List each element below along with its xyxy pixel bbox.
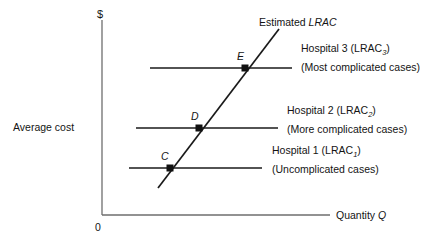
hospital-3-title: Hospital 3 (LRAC3) <box>301 41 420 60</box>
y-axis-label: Average cost <box>13 121 74 133</box>
hospital-1-title-tail: ) <box>357 144 361 156</box>
x-axis-label-symbol: Q <box>378 209 386 221</box>
estimated-lrac-label: Estimated LRAC <box>259 16 337 28</box>
hospital-3-annotation: Hospital 3 (LRAC3) (Most complicated cas… <box>301 41 420 75</box>
hospital-2-title: Hospital 2 (LRAC2) <box>287 103 407 122</box>
hospital-2-title-main: Hospital 2 (LRAC <box>287 104 368 116</box>
estimated-lrac-line <box>158 29 279 188</box>
point-marker-c <box>167 165 174 172</box>
origin-label: 0 <box>95 221 101 233</box>
point-label-e: E <box>237 50 244 62</box>
hospital-2-annotation: Hospital 2 (LRAC2) (More complicated cas… <box>287 103 407 137</box>
point-marker-e <box>242 65 249 72</box>
point-label-c: C <box>161 150 169 162</box>
hospital-2-caption: (More complicated cases) <box>287 122 407 137</box>
estimated-lrac-label-prefix: Estimated <box>259 16 309 28</box>
point-marker-d <box>196 125 203 132</box>
hospital-3-title-main: Hospital 3 (LRAC <box>301 42 382 54</box>
hospital-1-caption: (Uncomplicated cases) <box>272 162 379 177</box>
hospital-1-title-main: Hospital 1 (LRAC <box>272 144 353 156</box>
hospital-2-title-tail: ) <box>372 104 376 116</box>
estimated-lrac-label-symbol: LRAC <box>309 16 337 28</box>
hospital-3-title-tail: ) <box>386 42 390 54</box>
y-axis-unit-label: $ <box>97 8 103 20</box>
hospital-3-caption: (Most complicated cases) <box>301 60 420 75</box>
hospital-1-annotation: Hospital 1 (LRAC1) (Uncomplicated cases) <box>272 143 379 177</box>
x-axis-label-prefix: Quantity <box>336 209 378 221</box>
hospital-1-title: Hospital 1 (LRAC1) <box>272 143 379 162</box>
point-label-d: D <box>191 110 199 122</box>
x-axis-label: Quantity Q <box>336 209 386 221</box>
lrac-hospital-cost-diagram: $ Average cost 0 Quantity Q Estimated LR… <box>0 0 438 249</box>
